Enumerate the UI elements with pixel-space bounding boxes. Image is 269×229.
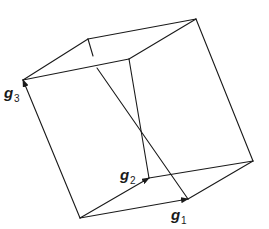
svg-text:1: 1 — [181, 215, 187, 226]
label-g3: g 3 — [3, 84, 20, 104]
edge-vertical-back-left-upper — [88, 39, 93, 56]
vector-g3 — [23, 80, 80, 218]
edge-vertical-back-left-lower — [97, 68, 188, 199]
edge-vertical-back-right — [196, 19, 253, 161]
label-g2: g 2 — [119, 166, 136, 186]
svg-text:g: g — [119, 166, 129, 183]
svg-text:g: g — [170, 206, 180, 223]
svg-text:2: 2 — [130, 175, 136, 186]
parallelepiped-diagram: g 3 g 2 g 1 — [0, 0, 269, 229]
svg-text:g: g — [3, 84, 13, 101]
svg-text:3: 3 — [14, 93, 20, 104]
label-g1: g 1 — [170, 206, 187, 226]
